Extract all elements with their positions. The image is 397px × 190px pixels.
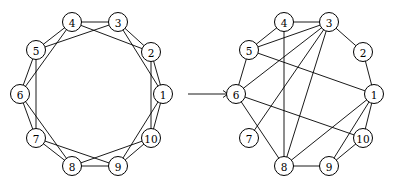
node-1: 1 [154,85,173,104]
node-3: 3 [320,13,339,32]
node-2: 2 [354,43,373,62]
node-label: 8 [69,161,76,173]
node-1: 1 [365,85,384,104]
node-label: 4 [281,17,288,29]
node-label: 5 [33,45,40,57]
edge-6-8 [20,94,72,166]
node-label: 3 [326,17,333,29]
node-label: 8 [281,161,288,173]
node-9: 9 [109,157,128,176]
node-5: 5 [240,41,259,60]
node-label: 1 [371,89,378,101]
node-label: 7 [246,133,253,145]
node-3: 3 [109,13,128,32]
node-label: 9 [326,161,333,173]
node-2: 2 [142,43,161,62]
node-label: 3 [115,17,122,29]
node-7: 7 [240,129,259,148]
node-4: 4 [63,13,82,32]
right-graph-nodes: 12345678910 [227,13,384,176]
node-label: 7 [33,133,40,145]
node-5: 5 [27,41,46,60]
node-8: 8 [63,157,82,176]
node-8: 8 [275,157,294,176]
node-7: 7 [27,129,46,148]
right-arrow-icon [188,91,229,98]
edge-7-3 [249,22,329,138]
node-label: 10 [356,133,369,145]
left-graph-nodes: 12345678910 [11,13,173,176]
node-label: 4 [69,17,76,29]
node-6: 6 [11,85,30,104]
node-10: 10 [142,129,161,148]
edge-3-8 [284,22,329,166]
edge-4-6 [20,22,72,94]
node-label: 2 [360,47,367,59]
node-9: 9 [320,157,339,176]
node-10: 10 [354,129,373,148]
node-label: 1 [160,89,167,101]
node-label: 10 [144,133,157,145]
right-graph-edges [236,22,374,166]
node-label: 6 [17,89,24,101]
node-6: 6 [227,85,246,104]
node-label: 6 [233,89,240,101]
node-label: 5 [246,45,253,57]
node-4: 4 [275,13,294,32]
diagram-canvas: 12345678910 12345678910 [0,0,397,190]
node-label: 2 [148,47,155,59]
node-label: 9 [115,161,122,173]
